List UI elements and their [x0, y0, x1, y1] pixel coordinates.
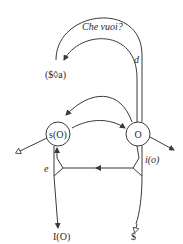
- ego-label: e: [44, 163, 49, 174]
- entry-line: [20, 138, 47, 151]
- ideal-wedge: [133, 146, 139, 168]
- subject-label: $: [131, 231, 136, 242]
- graph-of-desire: Che vuoi? ($◊a) d s(O) O e i(o) I(O) $: [0, 0, 183, 244]
- O-label: O: [134, 129, 141, 140]
- ideal-ego-label: i(o): [145, 154, 160, 166]
- desire-label: d: [134, 54, 140, 65]
- outer-arc: [56, 18, 142, 122]
- middle-arc: [66, 96, 132, 122]
- fantasy-label: ($◊a): [45, 69, 66, 81]
- ego-ideal-label: I(O): [53, 231, 70, 243]
- signifier-arc: [72, 121, 125, 129]
- che-vuoi-label: Che vuoi?: [82, 21, 123, 32]
- exit-arrow: [150, 137, 174, 150]
- s-O-label: s(O): [49, 129, 67, 141]
- ego-wedge: [57, 148, 63, 168]
